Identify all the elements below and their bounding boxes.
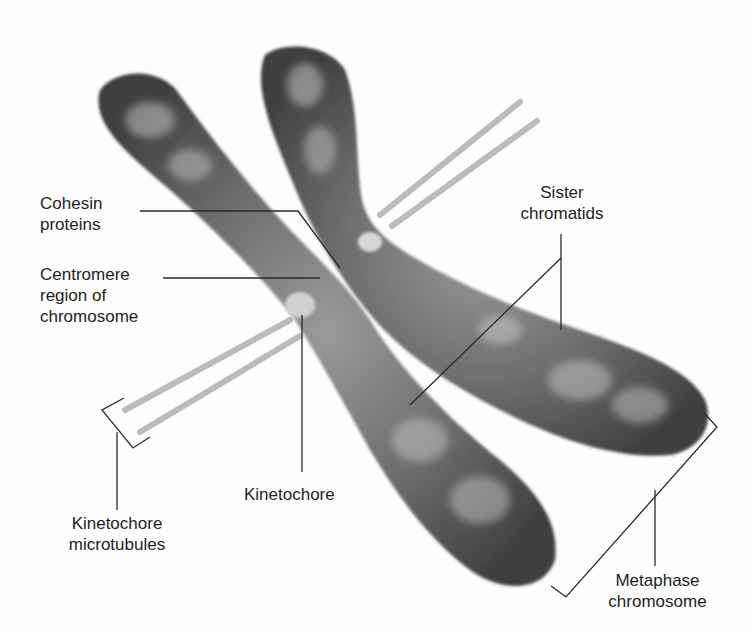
label-line: Sister [508,182,616,203]
label-line: Cohesin [40,193,102,214]
label-line: Centromere [40,264,138,285]
label-line: chromatids [508,203,616,224]
microtubules-bracket [102,398,150,448]
microtubules-lower [125,320,300,432]
kinetochore-upper [358,232,382,252]
label-sister-chromatids: Sister chromatids [508,182,616,224]
label-metaphase-chromosome: Metaphase chromosome [595,570,720,612]
diagram-canvas: Cohesin proteins Centromere region of ch… [0,0,753,633]
label-line: chromosome [595,591,720,612]
kinetochore-lower [285,292,315,318]
label-line: proteins [40,214,102,235]
label-kinetochore-microtubules: Kinetochore microtubules [52,513,182,555]
label-line: region of [40,285,138,306]
label-line: Kinetochore [52,513,182,534]
label-kinetochore: Kinetochore [244,484,335,505]
label-centromere-region: Centromere region of chromosome [40,264,138,327]
label-line: Metaphase [595,570,720,591]
label-line: microtubules [52,534,182,555]
label-cohesin-proteins: Cohesin proteins [40,193,102,235]
label-line: chromosome [40,306,138,327]
label-line: Kinetochore [244,484,335,505]
